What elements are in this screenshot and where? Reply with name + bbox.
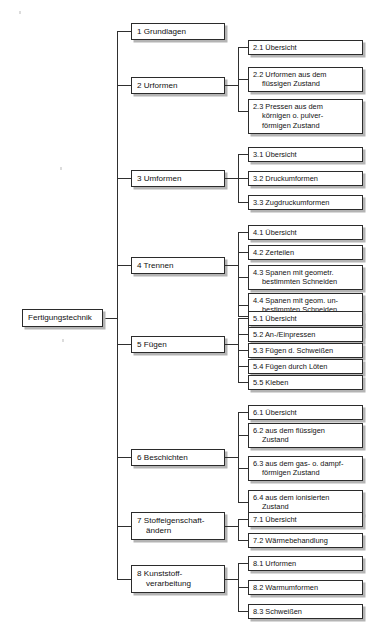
node-lvl1-beschichten[interactable]: 6 Beschichten	[131, 449, 225, 466]
connector-g6-stub	[225, 457, 238, 458]
connector-g4-stub	[225, 265, 238, 266]
connector-g2-3	[238, 111, 248, 112]
node-lvl2-7-2[interactable]: 7.2 Wärmebehandlung	[248, 533, 363, 548]
connector-g6-2	[238, 435, 248, 436]
connector-lvl1-8	[117, 579, 131, 580]
connector-g3-2	[238, 178, 248, 179]
connector-g5-4	[238, 366, 248, 367]
connector-lvl1-3	[117, 178, 131, 179]
node-line-1: 8 Kunststoff-	[137, 569, 182, 578]
node-lvl2-8-3[interactable]: 8.3 Schweißen	[248, 604, 363, 619]
connector-g5-2	[238, 334, 248, 335]
node-lvl1-kunststoffverarbeitung[interactable]: 8 Kunststoff-verarbeitung	[131, 565, 225, 593]
node-line-1: 2.3 Pressen aus dem	[253, 102, 323, 111]
connector-g5-stub	[225, 344, 238, 345]
connector-g7-vertical	[238, 519, 239, 541]
node-line-1: 4.3 Spanen mit geometr.	[253, 268, 334, 277]
connector-g7-stub	[225, 526, 238, 527]
connector-g7-2	[238, 540, 248, 541]
node-lvl2-5-4[interactable]: 5.4 Fügen durch Löten	[248, 359, 363, 374]
connector-root-stub	[103, 318, 118, 319]
scan-speck	[60, 167, 62, 170]
node-lvl2-4-2[interactable]: 4.2 Zerteilen	[248, 245, 363, 260]
connector-g8-1	[238, 563, 248, 564]
node-line-1: 2.2 Urformen aus dem	[253, 70, 327, 79]
connector-lvl1-4	[117, 265, 131, 266]
connector-lvl1-6	[117, 457, 131, 458]
connector-lvl1-1	[117, 31, 131, 32]
node-lvl2-3-3[interactable]: 3.3 Zugdruckumformen	[248, 195, 363, 210]
connector-g3-1	[238, 154, 248, 155]
connector-trunk-vertical	[117, 31, 118, 579]
node-line-2: flüssigen Zustand	[253, 79, 359, 88]
connector-g4-1	[238, 232, 248, 233]
node-lvl2-5-3[interactable]: 5.3 Fügen d. Schweißen	[248, 343, 363, 358]
node-line-2: ändern	[137, 526, 220, 536]
connector-g7-1	[238, 519, 248, 520]
node-lvl2-6-3[interactable]: 6.3 aus dem gas- o. dampf-förmigen Zusta…	[248, 456, 363, 481]
node-lvl1-fuegen[interactable]: 5 Fügen	[131, 336, 225, 353]
connector-g8-3	[238, 611, 248, 612]
tree-diagram: Fertigungstechnik 1 Grundlagen 2 Urforme…	[0, 0, 370, 639]
connector-g5-1	[238, 318, 248, 319]
node-lvl2-4-1[interactable]: 4.1 Übersicht	[248, 225, 363, 240]
node-line-2: körnigen o. pulver-	[253, 111, 359, 120]
connector-g5-5	[238, 382, 248, 383]
node-lvl2-3-2[interactable]: 3.2 Druckumformen	[248, 171, 363, 186]
connector-g4-3	[238, 277, 248, 278]
node-line-1: 6.4 aus dem ionisierten	[253, 493, 329, 502]
connector-g3-3	[238, 202, 248, 203]
node-line-1: 4.4 Spanen mit geom. un-	[253, 296, 338, 305]
node-lvl2-3-1[interactable]: 3.1 Übersicht	[248, 147, 363, 162]
scan-speck	[19, 11, 21, 14]
node-line-1: 6.3 aus dem gas- o. dampf-	[253, 459, 343, 468]
node-lvl2-2-1[interactable]: 2.1 Übersicht	[248, 40, 363, 55]
node-lvl2-6-1[interactable]: 6.1 Übersicht	[248, 405, 363, 420]
node-lvl2-6-2[interactable]: 6.2 aus dem flüssigenZustand	[248, 423, 363, 448]
node-line-3: förmigen Zustand	[253, 121, 359, 130]
node-lvl2-2-3[interactable]: 2.3 Pressen aus demkörnigen o. pulver-fö…	[248, 99, 363, 134]
node-line-1: 6.2 aus dem flüssigen	[253, 426, 325, 435]
node-lvl1-urformen[interactable]: 2 Urformen	[131, 77, 225, 94]
node-lvl2-5-5[interactable]: 5.5 Kleben	[248, 375, 363, 390]
node-line-2: bestimmten Schneiden	[253, 277, 359, 286]
node-lvl2-8-2[interactable]: 8.2 Warmumformen	[248, 580, 363, 595]
node-line-1: 7 Stoffeigenschaft-	[137, 516, 204, 525]
node-line-2: Zustand	[253, 435, 359, 444]
node-line-2: Zustand	[253, 502, 359, 511]
connector-g6-4	[238, 502, 248, 503]
node-lvl2-5-1[interactable]: 5.1 Übersicht	[248, 311, 363, 326]
connector-g2-stub	[225, 85, 238, 86]
node-line-2: verarbeitung	[137, 579, 220, 589]
node-line-2: förmigen Zustand	[253, 468, 359, 477]
node-root[interactable]: Fertigungstechnik	[22, 309, 103, 327]
connector-g2-2	[238, 79, 248, 80]
node-lvl2-5-2[interactable]: 5.2 An-/Einpressen	[248, 327, 363, 342]
node-lvl1-stoffeigenschaft-aendern[interactable]: 7 Stoffeigenschaft-ändern	[131, 512, 225, 540]
node-lvl1-umformen[interactable]: 3 Umformen	[131, 170, 225, 187]
node-lvl1-trennen[interactable]: 4 Trennen	[131, 257, 225, 274]
connector-g4-2	[238, 252, 248, 253]
connector-lvl1-7	[117, 526, 131, 527]
connector-g4-5	[238, 316, 248, 317]
node-lvl2-4-3[interactable]: 4.3 Spanen mit geometr.bestimmten Schnei…	[248, 265, 363, 290]
connector-g4-vertical	[238, 232, 239, 316]
connector-g8-stub	[225, 579, 238, 580]
connector-g6-vertical	[238, 412, 239, 502]
connector-g6-3	[238, 468, 248, 469]
node-lvl1-grundlagen[interactable]: 1 Grundlagen	[131, 23, 225, 40]
connector-g4-4	[238, 305, 248, 306]
connector-lvl1-5	[117, 344, 131, 345]
node-lvl2-8-1[interactable]: 8.1 Urformen	[248, 556, 363, 571]
scan-speck	[62, 339, 64, 342]
connector-g8-2	[238, 587, 248, 588]
connector-g6-1	[238, 412, 248, 413]
connector-g2-1	[238, 47, 248, 48]
node-lvl2-2-2[interactable]: 2.2 Urformen aus demflüssigen Zustand	[248, 67, 363, 92]
connector-lvl1-2	[117, 85, 131, 86]
node-lvl2-7-1[interactable]: 7.1 Übersicht	[248, 512, 363, 527]
connector-g3-stub	[225, 178, 238, 179]
connector-g5-3	[238, 350, 248, 351]
